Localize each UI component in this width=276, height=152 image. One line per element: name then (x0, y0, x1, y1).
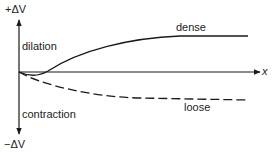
x-axis-label: x (262, 65, 268, 77)
dense-label: dense (176, 21, 206, 33)
y-axis-negative-label: −ΔV (4, 138, 25, 150)
dilation-label: dilation (22, 40, 57, 52)
loose-curve (19, 72, 248, 100)
contraction-label: contraction (22, 108, 76, 120)
volume-change-diagram (0, 0, 276, 152)
loose-label: loose (184, 101, 210, 113)
y-axis-positive-label: +ΔV (5, 3, 26, 15)
